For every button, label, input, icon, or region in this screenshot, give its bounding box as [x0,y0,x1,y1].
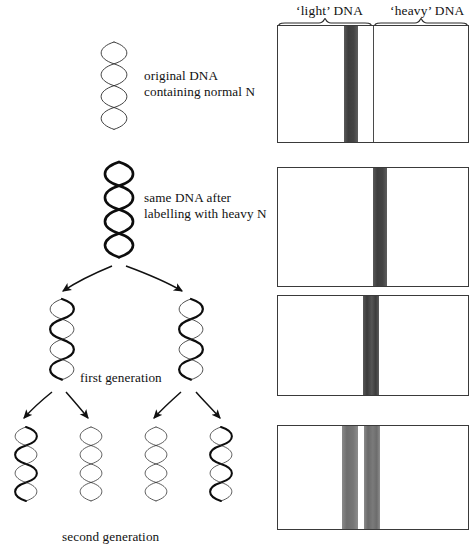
arrow-to-second-gen-2 [66,392,88,418]
label-original-dna-line2: containing normal N [144,84,255,100]
helix-first-gen-right-hybrid [179,299,203,380]
arrow-to-first-gen-left [63,266,112,291]
label-second-generation: second generation [62,529,159,545]
panel-center-divider [373,26,374,142]
helix-second-gen-3-light [145,427,167,501]
label-first-generation: first generation [80,370,162,386]
label-labelled-dna-line2: labelling with heavy N [144,206,267,222]
helix-second-gen-2-light [80,427,102,501]
gel-panel-original[interactable] [277,25,469,143]
helix-second-gen-1-hybrid [15,427,37,501]
helix-first-gen-left-hybrid [50,299,74,380]
label-original-dna-line1: original DNA [144,68,218,84]
dna-band-hybrid [364,425,380,530]
gel-panel-second-generation[interactable] [277,425,469,530]
gel-panel-first-generation[interactable] [277,295,469,396]
replication-tree-artwork [0,0,277,551]
figure-root: ‘light’ DNA ‘heavy’ DNA [0,0,474,551]
helix-original-light [101,42,127,129]
label-labelled-dna-line1: same DNA after [144,190,231,206]
column-header-light: ‘light’ DNA [296,3,363,19]
dna-band-heavy [373,167,387,287]
arrow-to-second-gen-4 [196,392,220,418]
arrow-to-first-gen-right [126,266,182,291]
helix-labelled-heavy [105,162,133,257]
dna-band-light [344,25,358,143]
arrow-to-second-gen-1 [24,392,52,418]
helix-second-gen-4-hybrid [210,427,232,501]
gel-panel-labelled[interactable] [277,167,469,287]
gel-panel-stack [277,25,469,531]
dna-band-light [342,425,358,530]
arrow-to-second-gen-3 [154,392,181,418]
column-header-heavy: ‘heavy’ DNA [390,3,464,19]
dna-band-hybrid [363,295,379,396]
